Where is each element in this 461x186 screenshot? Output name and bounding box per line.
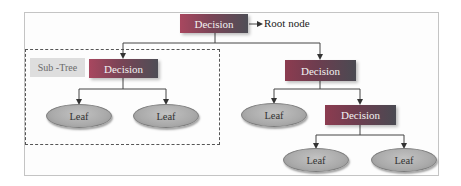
leaf-label: Leaf bbox=[69, 111, 88, 122]
left-decision-label: Decision bbox=[104, 63, 143, 75]
left-decision-node: Decision bbox=[89, 59, 158, 78]
leaf-node: Leaf bbox=[283, 148, 349, 172]
root-node-annotation: Root node bbox=[264, 17, 310, 29]
leaf-node: Leaf bbox=[241, 103, 307, 127]
right-decision-node: Decision bbox=[285, 60, 356, 81]
leaf-node: Leaf bbox=[371, 148, 437, 172]
leaf-label: Leaf bbox=[156, 111, 175, 122]
sub-decision-label: Decision bbox=[341, 109, 380, 121]
leaf-node: Leaf bbox=[133, 104, 199, 128]
subtree-label: Sub -Tree bbox=[30, 58, 85, 77]
root-decision-node: Decision bbox=[180, 14, 248, 33]
leaf-label: Leaf bbox=[394, 155, 413, 166]
leaf-label: Leaf bbox=[306, 155, 325, 166]
sub-decision-node: Decision bbox=[325, 105, 396, 125]
root-decision-label: Decision bbox=[194, 18, 233, 30]
right-decision-label: Decision bbox=[301, 65, 340, 77]
leaf-label: Leaf bbox=[264, 110, 283, 121]
leaf-node: Leaf bbox=[46, 104, 112, 128]
